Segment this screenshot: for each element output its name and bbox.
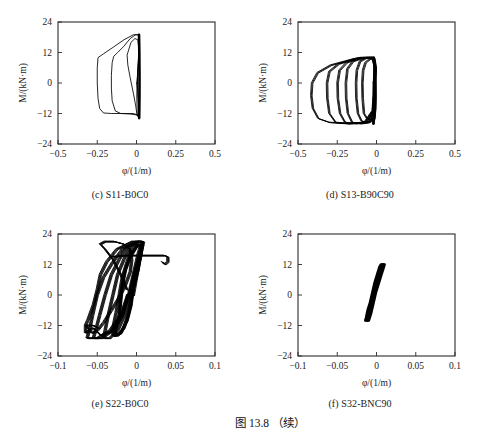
plot-panel-c: −24−1201224−0.5−0.2500.250.5φ/(1/m)M/(kN… xyxy=(0,0,240,210)
y-tick-label: 24 xyxy=(43,229,53,239)
x-tick-label: 0.05 xyxy=(167,361,184,371)
plot-frame xyxy=(58,234,215,356)
chart-svg-c: −24−1201224−0.5−0.2500.250.5φ/(1/m)M/(kN… xyxy=(0,0,240,190)
y-tick-label: 24 xyxy=(283,229,293,239)
y-tick-label: 0 xyxy=(287,290,292,300)
x-tick-label: −0.5 xyxy=(49,149,66,159)
y-tick-label: 0 xyxy=(287,78,292,88)
x-tick-label: 0 xyxy=(134,149,139,159)
x-tick-label: −0.1 xyxy=(49,361,66,371)
x-tick-label: 0.05 xyxy=(407,361,424,371)
x-tick-label: 0.25 xyxy=(167,149,184,159)
chart-d-content: −24−1201224−0.5−0.2500.250.5φ/(1/m)M/(kN… xyxy=(258,17,461,177)
x-tick-label: 0.25 xyxy=(407,149,424,159)
x-tick-label: 0 xyxy=(374,149,379,159)
x-tick-label: 0.1 xyxy=(209,361,221,371)
y-tick-label: −24 xyxy=(277,139,292,149)
figure-caption: 图 13.8 （续） xyxy=(0,414,480,430)
x-axis-title: φ/(1/m) xyxy=(362,378,391,389)
chart-e-content: −24−1201224−0.1−0.0500.050.1φ/(1/m)M/(kN… xyxy=(18,229,221,389)
y-tick-label: −24 xyxy=(37,139,52,149)
y-tick-label: 12 xyxy=(43,260,53,270)
figure-13-8-continued: −24−1201224−0.5−0.2500.250.5φ/(1/m)M/(kN… xyxy=(0,0,480,436)
y-tick-label: 24 xyxy=(43,17,53,27)
y-tick-label: 0 xyxy=(47,290,52,300)
figure-caption-text: 图 13.8 （续） xyxy=(175,414,305,430)
y-tick-label: 0 xyxy=(47,78,52,88)
x-tick-label: 0.5 xyxy=(209,149,221,159)
chart-c-content: −24−1201224−0.5−0.2500.250.5φ/(1/m)M/(kN… xyxy=(18,17,221,177)
x-tick-label: 0.1 xyxy=(449,361,461,371)
x-tick-label: 0 xyxy=(374,361,379,371)
panel-caption-d: (d) S13-B90C90 xyxy=(240,189,480,200)
y-axis-title: M/(kN·m) xyxy=(18,63,29,103)
y-axis-title: M/(kN·m) xyxy=(18,275,29,315)
x-axis-title: φ/(1/m) xyxy=(362,166,391,177)
x-tick-label: −0.1 xyxy=(289,361,306,371)
panel-caption-f: (f) S32-BNC90 xyxy=(240,398,480,409)
x-axis-title: φ/(1/m) xyxy=(122,166,151,177)
chart-svg-f: −24−1201224−0.1−0.0500.050.1φ/(1/m)M/(kN… xyxy=(240,212,480,402)
y-tick-label: −12 xyxy=(277,321,292,331)
y-tick-label: 12 xyxy=(43,48,53,58)
x-tick-label: −0.05 xyxy=(326,361,348,371)
plot-panel-e: −24−1201224−0.1−0.0500.050.1φ/(1/m)M/(kN… xyxy=(0,212,240,422)
y-tick-label: −12 xyxy=(37,321,52,331)
x-tick-label: −0.05 xyxy=(86,361,108,371)
x-tick-label: −0.25 xyxy=(326,149,348,159)
chart-svg-e: −24−1201224−0.1−0.0500.050.1φ/(1/m)M/(kN… xyxy=(0,212,240,402)
y-tick-label: −24 xyxy=(277,351,292,361)
x-tick-label: −0.5 xyxy=(289,149,306,159)
x-tick-label: 0.5 xyxy=(449,149,461,159)
y-axis-title: M/(kN·m) xyxy=(258,275,269,315)
panel-caption-e: (e) S22-B0C0 xyxy=(0,398,240,409)
x-axis-title: φ/(1/m) xyxy=(122,378,151,389)
x-tick-label: −0.25 xyxy=(86,149,108,159)
x-tick-label: 0 xyxy=(134,361,139,371)
y-tick-label: 24 xyxy=(283,17,293,27)
y-axis-title: M/(kN·m) xyxy=(258,63,269,103)
chart-f-content: −24−1201224−0.1−0.0500.050.1φ/(1/m)M/(kN… xyxy=(258,229,461,389)
chart-svg-d: −24−1201224−0.5−0.2500.250.5φ/(1/m)M/(kN… xyxy=(240,0,480,190)
y-tick-label: 12 xyxy=(283,260,293,270)
y-tick-label: −12 xyxy=(37,109,52,119)
plot-panel-d: −24−1201224−0.5−0.2500.250.5φ/(1/m)M/(kN… xyxy=(240,0,480,210)
plot-frame xyxy=(58,22,215,144)
y-tick-label: 12 xyxy=(283,48,293,58)
panel-caption-c: (c) S11-B0C0 xyxy=(0,189,240,200)
y-tick-label: −12 xyxy=(277,109,292,119)
plot-panel-f: −24−1201224−0.1−0.0500.050.1φ/(1/m)M/(kN… xyxy=(240,212,480,422)
y-tick-label: −24 xyxy=(37,351,52,361)
